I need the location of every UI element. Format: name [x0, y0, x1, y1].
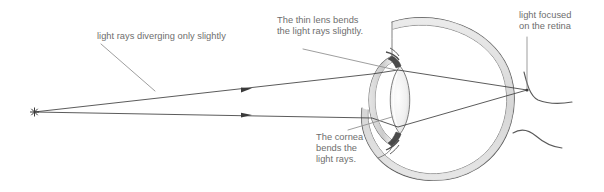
upper-ray-arrowhead: [241, 88, 252, 93]
lower-ray-arrowhead: [241, 113, 252, 118]
ciliary-body-lower: [386, 132, 401, 154]
sclera-shading: [362, 18, 515, 181]
eye-optics-diagram: light rays diverging only slightly The t…: [0, 0, 604, 192]
label-light-rays-diverging: light rays diverging only slightly: [97, 31, 226, 42]
optic-nerve-lower: [513, 130, 562, 148]
leader-lens: [303, 49, 396, 70]
label-cornea-bends: The cornea bends the light rays.: [316, 132, 363, 166]
leader-lines-group: [101, 37, 527, 130]
label-light-focused-retina: light focused on the retina: [519, 10, 571, 32]
light-rays-group: [30, 70, 527, 127]
eyeball-group: [362, 18, 572, 181]
upper-ray-incoming: [34, 74, 372, 112]
cornea-shading: [369, 56, 392, 146]
label-thin-lens-bends: The thin lens bends the light rays sligh…: [277, 15, 363, 37]
optic-nerve: [524, 72, 572, 103]
leader-diverging: [101, 44, 155, 91]
lower-ray-incoming: [34, 112, 372, 118]
